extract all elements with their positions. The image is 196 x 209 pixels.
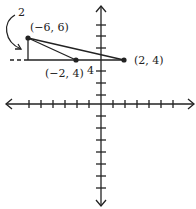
label-point-c: (2, 4) bbox=[134, 54, 164, 67]
curved-arrow-icon bbox=[7, 15, 21, 49]
triangle-side-b bbox=[28, 38, 76, 60]
point-c bbox=[121, 57, 126, 62]
triangle-side-a bbox=[28, 38, 124, 60]
label-point-a: (−6, 6) bbox=[30, 21, 69, 34]
point-b bbox=[73, 57, 78, 62]
height-label: 2 bbox=[18, 6, 25, 19]
point-a bbox=[25, 35, 30, 40]
base-label: 4 bbox=[87, 64, 94, 77]
coordinate-diagram: (−6, 6) (−2, 4) (2, 4) 2 4 bbox=[0, 0, 196, 209]
label-point-b: (−2, 4) bbox=[45, 67, 84, 80]
